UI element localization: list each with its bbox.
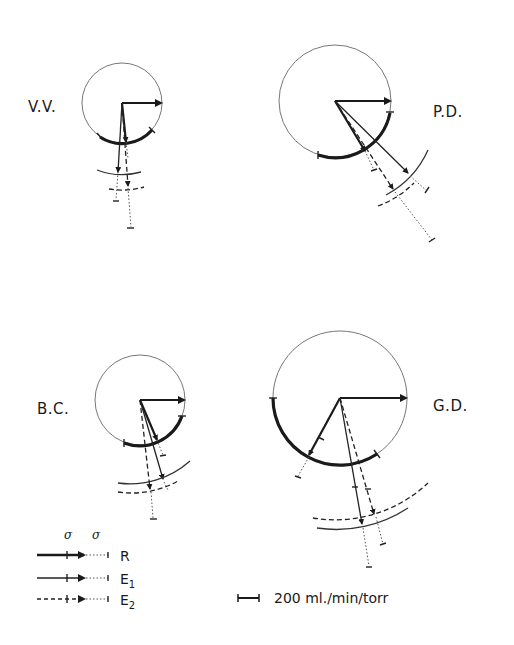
legend-label-e1: E1: [120, 571, 135, 590]
legend-sigma-1: σ: [64, 528, 73, 542]
legend: σ σ R E1 E2: [37, 528, 135, 611]
panel-pd: P.D.: [279, 45, 463, 242]
legend-sigma-2: σ: [92, 528, 101, 542]
arc-e1-bc: [118, 461, 190, 484]
arc-e2-bc: [118, 481, 178, 493]
panel-label-bc: B.C.: [37, 400, 69, 418]
vector-e1-vv: [118, 103, 122, 172]
scale-bar: 200 ml./min/torr: [238, 590, 389, 606]
panel-vv: V.V.: [28, 63, 162, 228]
vector-diagram: V.V. P.D.: [0, 0, 514, 645]
vector-r-gd: [309, 398, 340, 455]
arc-e2-pd: [378, 183, 414, 206]
arc-r-gd: [273, 398, 377, 465]
panel-label-gd: G.D.: [433, 397, 468, 415]
vector-e1-pd: [335, 101, 408, 173]
arc-e1-gd: [317, 508, 408, 529]
legend-label-r: R: [120, 548, 130, 564]
panel-label-vv: V.V.: [28, 98, 56, 116]
panel-label-pd: P.D.: [433, 103, 463, 121]
panel-gd: G.D.: [269, 331, 468, 567]
arc-e2-vv: [109, 187, 144, 190]
panel-bc: B.C.: [37, 355, 190, 519]
arc-e1-vv: [97, 170, 141, 175]
legend-label-e2: E2: [120, 592, 135, 611]
scale-bar-label: 200 ml./min/torr: [274, 590, 389, 606]
